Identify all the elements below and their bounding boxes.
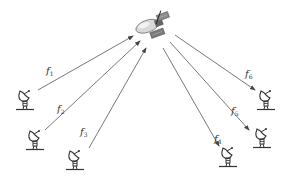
ground-station-antenna-icon: [257, 90, 275, 110]
ground-station-antenna-icon: [16, 90, 34, 110]
link-f6-arrow: [175, 35, 255, 90]
label-f5: f5: [230, 105, 239, 117]
link-f4-arrow: [163, 48, 219, 146]
frequency-labels: f1 f2 f3 f4 f5 f6: [45, 65, 253, 145]
ground-stations: [16, 90, 275, 170]
signal-links: [38, 35, 255, 148]
label-f3: f3: [79, 126, 88, 138]
label-f1: f1: [45, 65, 54, 77]
label-f4: f4: [213, 133, 222, 145]
link-f2-arrow: [45, 41, 140, 130]
diagram-canvas: f1 f2 f3 f4 f5 f6: [0, 0, 293, 191]
link-f1-arrow: [38, 36, 133, 90]
link-f3-arrow: [89, 48, 146, 148]
label-f6: f6: [244, 68, 253, 80]
ground-station-antenna-icon: [219, 147, 237, 167]
ground-station-antenna-icon: [66, 150, 84, 170]
satellite-icon: [133, 9, 175, 43]
label-f2: f2: [56, 103, 65, 115]
ground-station-antenna-icon: [253, 128, 271, 148]
ground-station-antenna-icon: [26, 130, 44, 150]
